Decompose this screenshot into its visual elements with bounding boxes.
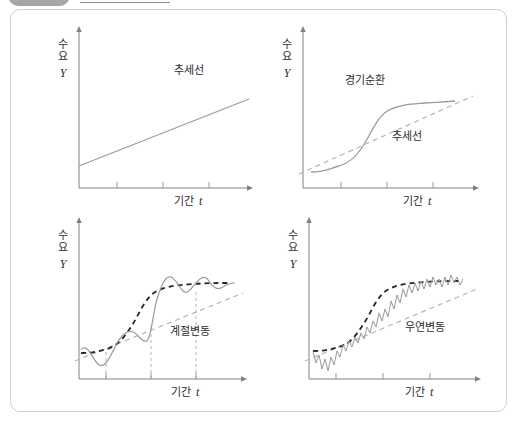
y-axis-arrow-icon bbox=[306, 217, 311, 223]
x-axis-arrow-icon bbox=[475, 376, 481, 381]
chart-panel-trend: 수 요 Y 기간 t 추세선 bbox=[39, 22, 259, 207]
y-axis-label-kr-char1: 수 bbox=[58, 38, 68, 50]
y-axis-label-symbol: Y bbox=[60, 66, 68, 80]
chart-seasonal: 수 요 Y 기간 t 계절변동 bbox=[39, 213, 259, 398]
annotation-random-variation: 우연변동 bbox=[405, 321, 445, 333]
series-business-cycle bbox=[313, 281, 459, 351]
annotation-business-cycle: 경기순환 bbox=[345, 74, 385, 86]
y-axis-label-kr-char1: 수 bbox=[288, 229, 298, 241]
annotation-trend-line: 추세선 bbox=[174, 64, 204, 76]
chart-panel-random: 수 요 Y 기간 t 우연변동 bbox=[273, 213, 493, 398]
chart-trend: 수 요 Y 기간 t 추세선 bbox=[39, 22, 259, 207]
x-axis-arrow-icon bbox=[473, 185, 479, 190]
x-axis-arrow-icon bbox=[241, 376, 247, 381]
x-axis-arrow-icon bbox=[247, 185, 253, 190]
figure-number-badge: 그림 2-1 bbox=[8, 0, 70, 6]
y-axis-label-kr-char1: 수 bbox=[282, 38, 292, 50]
x-axis-label-kr: 기간 bbox=[174, 195, 194, 207]
figure-frame: 수 요 Y 기간 t 추세선 수 요 Y 기간 t 경기순환 bbox=[10, 9, 507, 412]
y-axis-label-symbol: Y bbox=[60, 257, 68, 271]
y-axis-arrow-icon bbox=[300, 26, 305, 32]
chart-random: 수 요 Y 기간 t 우연변동 bbox=[273, 213, 493, 398]
series-trend-line bbox=[299, 96, 473, 174]
series-business-cycle bbox=[81, 283, 229, 353]
y-axis-label-kr-char2: 요 bbox=[58, 50, 68, 62]
x-axis-label-kr: 기간 bbox=[405, 386, 425, 398]
y-axis-label-kr-char2: 요 bbox=[288, 241, 298, 253]
x-axis-label-symbol: t bbox=[199, 194, 203, 207]
x-axis-label-symbol: t bbox=[196, 385, 200, 398]
x-axis-label-symbol: t bbox=[428, 194, 432, 207]
y-axis-label-kr-char2: 요 bbox=[58, 241, 68, 253]
annotation-seasonal-variation: 계절변동 bbox=[170, 325, 210, 337]
chart-cycle: 수 요 Y 기간 t 경기순환 추세선 bbox=[273, 22, 493, 207]
series-seasonal-variation bbox=[81, 277, 235, 366]
y-axis-label-kr-char2: 요 bbox=[282, 50, 292, 62]
figure-title-underline bbox=[80, 2, 170, 3]
y-axis-label-symbol: Y bbox=[290, 257, 298, 271]
figure-header: 그림 2-1 수요의 시계열 구성요소 bbox=[0, 0, 519, 7]
y-axis-arrow-icon bbox=[76, 217, 81, 223]
chart-panel-seasonal: 수 요 Y 기간 t 계절변동 bbox=[39, 213, 259, 398]
y-axis-label-kr-char1: 수 bbox=[58, 229, 68, 241]
annotation-trend-line: 추세선 bbox=[392, 130, 422, 142]
x-axis-label-kr: 기간 bbox=[403, 195, 423, 207]
y-axis-arrow-icon bbox=[76, 26, 81, 32]
chart-panel-cycle: 수 요 Y 기간 t 경기순환 추세선 bbox=[273, 22, 493, 207]
x-axis-label-symbol: t bbox=[430, 385, 434, 398]
x-axis-label-kr: 기간 bbox=[171, 386, 191, 398]
y-axis-label-symbol: Y bbox=[284, 66, 292, 80]
series-trend-line bbox=[79, 99, 249, 166]
